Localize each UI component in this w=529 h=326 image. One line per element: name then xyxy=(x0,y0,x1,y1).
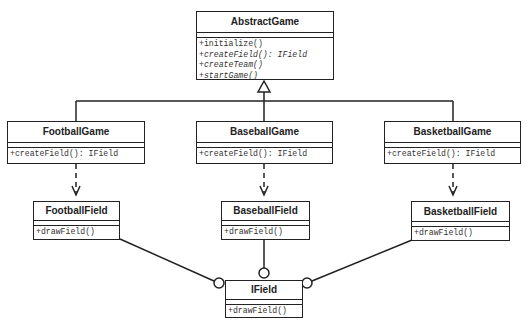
operation: +drawField() xyxy=(224,227,307,238)
operation: +createField(): IField xyxy=(387,149,518,160)
class-basketball-game[interactable]: BasketballGame +createField(): IField xyxy=(384,121,521,164)
operation: +drawField() xyxy=(36,227,117,238)
operation: +createField(): IField xyxy=(10,149,142,160)
operations-compartment: +drawField() xyxy=(222,226,309,239)
realization-basketball xyxy=(312,240,412,281)
lollipop-baseball-icon xyxy=(259,268,269,278)
class-baseball-game[interactable]: BaseballGame +createField(): IField xyxy=(196,121,333,164)
operation: +createField(): IField xyxy=(199,50,331,61)
class-football-field[interactable]: FootballField +drawField() xyxy=(33,201,120,240)
class-name: FootballField xyxy=(34,202,119,221)
class-name: AbstractGame xyxy=(197,12,333,33)
generalization-triangle-icon xyxy=(258,81,270,92)
operation: +startGame() xyxy=(199,71,331,82)
operations-compartment: +initialize() +createField(): IField +cr… xyxy=(197,38,333,82)
operation: +drawField() xyxy=(414,228,507,239)
class-name: IField xyxy=(226,281,302,300)
operation: +initialize() xyxy=(199,39,331,50)
arrowhead-football-icon xyxy=(72,186,80,195)
class-basketball-field[interactable]: BasketballField +drawField() xyxy=(411,201,510,241)
operation: +createTeam() xyxy=(199,60,331,71)
operations-compartment: +drawField() xyxy=(412,227,509,240)
lollipop-football-icon xyxy=(214,278,224,288)
realization-football xyxy=(120,239,214,281)
class-football-game[interactable]: FootballGame +createField(): IField xyxy=(7,121,145,164)
class-name: BasketballField xyxy=(412,202,509,222)
operations-compartment: +createField(): IField xyxy=(8,148,144,161)
class-name: BaseballGame xyxy=(197,122,332,143)
class-baseball-field[interactable]: BaseballField +drawField() xyxy=(221,201,310,240)
operations-compartment: +drawField() xyxy=(34,226,119,239)
operations-compartment: +createField(): IField xyxy=(197,148,332,161)
operation: +drawField() xyxy=(228,306,300,317)
arrowhead-baseball-icon xyxy=(260,186,268,195)
class-name: FootballGame xyxy=(8,122,144,143)
class-name: BasketballGame xyxy=(385,122,520,143)
class-ifield-interface[interactable]: IField +drawField() xyxy=(225,280,303,318)
operations-compartment: +drawField() xyxy=(226,305,302,318)
lollipop-basketball-icon xyxy=(302,278,312,288)
arrowhead-basketball-icon xyxy=(449,186,457,195)
operation: +createField(): IField xyxy=(199,149,330,160)
operations-compartment: +createField(): IField xyxy=(385,148,520,161)
class-name: BaseballField xyxy=(222,202,309,221)
class-abstract-game[interactable]: AbstractGame +initialize() +createField(… xyxy=(196,11,334,80)
